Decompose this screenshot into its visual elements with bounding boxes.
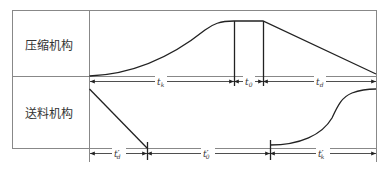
label-t-prime-0: t′0: [203, 149, 210, 160]
row-label-feeding: 送料机构: [25, 104, 73, 121]
feeding-curve: [90, 89, 377, 160]
label-t-prime-k: t′k: [318, 149, 325, 160]
label-masks: [112, 76, 330, 160]
label-t-prime-d: t′d: [114, 149, 121, 160]
timing-diagram: tk t0 td t′d t′0 t′k: [0, 0, 384, 169]
row-label-compression: 压缩机构: [25, 36, 73, 53]
